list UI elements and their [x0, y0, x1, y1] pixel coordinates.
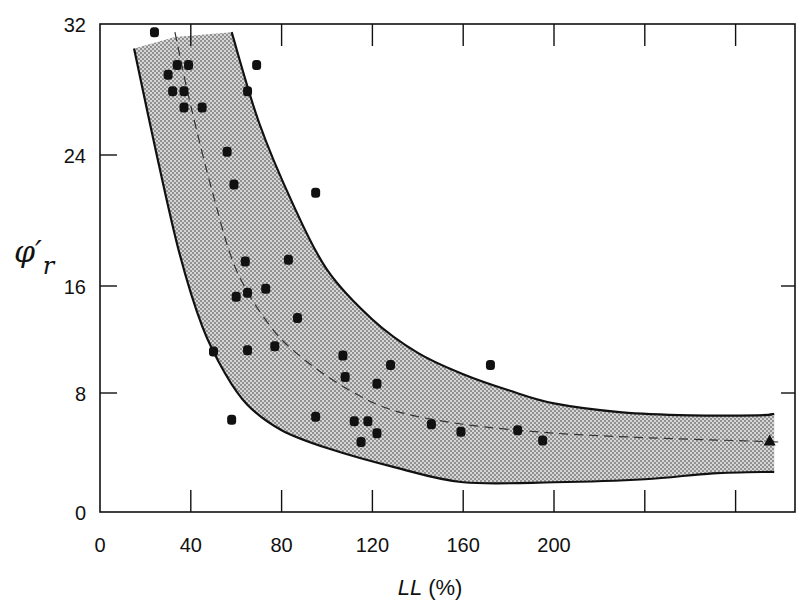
point-marker	[168, 86, 177, 96]
point-marker	[357, 437, 366, 447]
x-axis-title: LL(%)	[398, 575, 463, 600]
x-tick-label: 120	[356, 534, 389, 556]
point-marker	[293, 313, 302, 323]
y-tick-label: 8	[75, 383, 86, 405]
point-marker	[341, 372, 350, 382]
point-marker	[538, 436, 547, 446]
point-marker	[513, 425, 522, 435]
point-marker	[252, 60, 261, 70]
y-axis-title: φ′r	[14, 234, 56, 280]
point-marker	[386, 360, 395, 370]
x-tick-label: 200	[537, 534, 570, 556]
point-marker	[164, 70, 173, 80]
x-tick-label: 0	[94, 534, 105, 556]
point-marker	[338, 351, 347, 361]
point-marker	[372, 428, 381, 438]
point-marker	[311, 188, 320, 198]
point-marker	[184, 60, 193, 70]
point-marker	[372, 379, 381, 389]
point-marker	[198, 103, 207, 113]
x-tick-label: 40	[180, 534, 202, 556]
point-marker	[261, 284, 270, 294]
x-tick-label: 80	[270, 534, 292, 556]
point-marker	[350, 416, 359, 426]
point-marker	[456, 427, 465, 437]
point-marker	[311, 412, 320, 422]
point-marker	[363, 416, 372, 426]
x-tick-label: 160	[447, 534, 480, 556]
point-marker	[284, 255, 293, 265]
point-marker	[241, 256, 250, 266]
point-marker	[243, 345, 252, 355]
point-marker	[427, 419, 436, 429]
y-tick-label: 16	[64, 276, 86, 298]
point-marker	[232, 292, 241, 302]
y-tick-label: 32	[64, 14, 86, 36]
point-marker	[179, 86, 188, 96]
point-marker	[173, 60, 182, 70]
point-marker	[243, 288, 252, 298]
point-marker	[223, 147, 232, 157]
y-tick-label: 0	[75, 502, 86, 524]
point-marker	[179, 103, 188, 113]
point-marker	[209, 347, 218, 357]
point-marker	[270, 341, 279, 351]
scatter-chart: 0408012016020008162432 LL(%) φ′r	[0, 0, 809, 614]
point-marker	[486, 360, 495, 370]
y-tick-label: 24	[64, 145, 86, 167]
point-marker	[243, 86, 252, 96]
point-marker	[227, 415, 236, 425]
point-marker	[150, 27, 159, 37]
point-marker	[229, 179, 238, 189]
